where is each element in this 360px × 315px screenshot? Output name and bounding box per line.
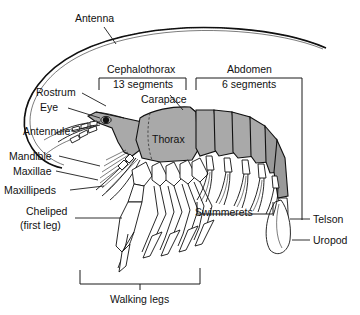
label-abdomen-line1: Abdomen — [227, 63, 272, 75]
label-rostrum: Rostrum — [36, 86, 76, 98]
label-telson: Telson — [313, 213, 344, 225]
head-rostrum-shape — [88, 112, 142, 156]
label-abdomen-line2: 6 segments — [222, 78, 276, 90]
label-antennule: Antennule — [23, 125, 70, 137]
label-swimmerets: Swimmerets — [195, 206, 253, 218]
label-uropod: Uropod — [313, 234, 348, 246]
label-antenna: Antenna — [75, 12, 114, 24]
eye-shape — [103, 117, 109, 123]
label-cephalothorax-line1: Cephalothorax — [107, 63, 176, 75]
label-walking-legs: Walking legs — [110, 293, 169, 305]
label-mandible: Mandible — [9, 150, 52, 162]
crayfish-anatomy-diagram: Antenna Rostrum Eye Antennule Mandible M… — [0, 0, 360, 315]
bracket-walking-legs — [80, 268, 200, 290]
anatomy-figure-svg: Antenna Rostrum Eye Antennule Mandible M… — [0, 0, 360, 315]
label-cheliped-line1: Cheliped — [26, 205, 68, 217]
leader-maxillae — [56, 171, 98, 180]
label-maxillipeds: Maxillipeds — [4, 184, 56, 196]
label-cheliped-line2: (first leg) — [20, 219, 61, 231]
label-maxillae: Maxillae — [13, 165, 52, 177]
leader-mandible — [59, 156, 100, 166]
label-carapace: Carapace — [141, 93, 187, 105]
leader-rostrum — [82, 93, 106, 106]
telson-uropod-shape — [266, 198, 290, 254]
label-eye: Eye — [40, 101, 58, 113]
label-cephalothorax-line2: 13 segments — [113, 78, 173, 90]
label-thorax: Thorax — [152, 133, 185, 145]
